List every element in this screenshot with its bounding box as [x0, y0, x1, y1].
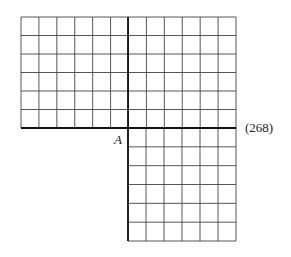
equation-number: (268) — [245, 120, 273, 136]
point-a-label: A — [114, 132, 122, 148]
